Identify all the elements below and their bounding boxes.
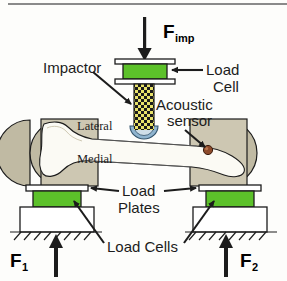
left-base-block (20, 207, 94, 232)
top-rule (8, 3, 287, 5)
upper-load-cell-label-line2: Cell (213, 78, 239, 95)
impactor-label: Impactor (43, 59, 101, 76)
acoustic-sensor-label-line1: Acoustic (156, 96, 213, 113)
right-load-plate (199, 185, 261, 191)
f2-subscript: 2 (252, 261, 258, 273)
left-load-cell (33, 191, 81, 207)
apparatus-diagram: F imp (0, 0, 287, 281)
impactor-rod (134, 84, 154, 128)
f1-subscript: 1 (22, 261, 28, 273)
left-load-plate (26, 185, 88, 191)
acoustic-sensor-label-line2: sensor (167, 112, 212, 129)
load-plates-label-line1: Load (122, 182, 155, 199)
medial-label: Medial (77, 152, 113, 166)
upper-load-cell-assembly (115, 59, 175, 84)
upper-load-cell-bottom-plate (115, 79, 175, 84)
upper-load-cell-body (123, 64, 167, 79)
lateral-label: Lateral (77, 119, 113, 133)
f1-symbol: F (10, 250, 22, 271)
upper-load-cell-label-line1: Load (206, 61, 239, 78)
f-imp-subscript: imp (175, 32, 195, 44)
f2-symbol: F (240, 250, 252, 271)
f-imp-symbol: F (163, 21, 175, 42)
right-load-cell (206, 191, 254, 207)
right-base-block (193, 207, 267, 232)
load-cells-label: Load Cells (107, 238, 178, 255)
upper-load-cell-top-plate (115, 59, 175, 64)
figure-container: F imp (0, 0, 287, 281)
load-plates-label-line2: Plates (118, 199, 160, 216)
